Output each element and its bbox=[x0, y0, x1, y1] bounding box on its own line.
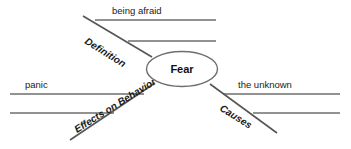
branch-label-effects-on-behavior: Effects on Behavior bbox=[72, 75, 158, 135]
spider-map-diagram: being afraid Definition panic Effects on… bbox=[0, 0, 351, 149]
branch-causes: the unknown Causes bbox=[210, 79, 340, 133]
branch-effects-on-behavior: panic Effects on Behavior bbox=[10, 75, 158, 140]
detail-label-the-unknown: the unknown bbox=[238, 79, 292, 90]
diagram-canvas: being afraid Definition panic Effects on… bbox=[0, 0, 351, 149]
branch-label-definition: Definition bbox=[83, 35, 128, 69]
center-label: Fear bbox=[170, 63, 194, 75]
branch-label-causes: Causes bbox=[218, 102, 254, 130]
detail-label-panic: panic bbox=[25, 79, 48, 90]
detail-label-being-afraid: being afraid bbox=[112, 5, 162, 16]
center-node: Fear bbox=[147, 52, 218, 87]
